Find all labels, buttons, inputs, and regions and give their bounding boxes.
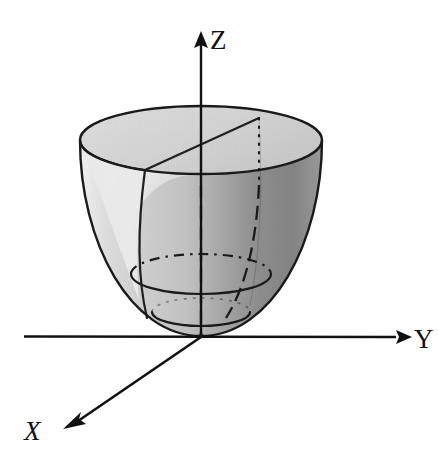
x-axis-line xyxy=(78,337,201,421)
y-axis-line xyxy=(24,337,396,338)
vertex-origin-point xyxy=(199,334,203,338)
y-axis-label: Y xyxy=(414,324,434,354)
z-axis-label: Z xyxy=(210,25,227,55)
paraboloid-figure: Y Z X xyxy=(0,0,438,456)
figure-canvas: Y Z X xyxy=(0,0,438,456)
x-axis-label: X xyxy=(23,416,42,446)
y-axis-arrowhead-icon xyxy=(396,330,412,344)
x-axis-arrowhead-icon xyxy=(63,412,86,429)
